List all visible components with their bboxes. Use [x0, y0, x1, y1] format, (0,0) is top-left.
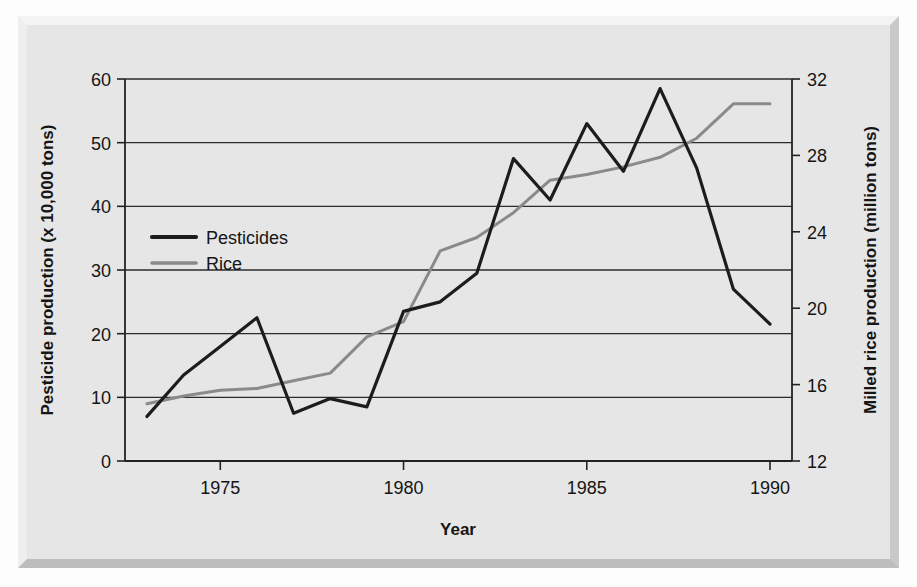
tick-label-right-28: 28	[807, 146, 827, 166]
tick-label-right-20: 20	[807, 299, 827, 319]
line-chart: 0102030405060 121620242832 1975198019851…	[0, 0, 917, 587]
x-axis-ticks	[220, 461, 770, 470]
tick-label-left-0: 0	[101, 452, 111, 472]
x-axis-tick-labels: 1975198019851990	[200, 478, 790, 498]
series-group	[147, 89, 770, 417]
tick-label-right-24: 24	[807, 223, 827, 243]
tick-label-left-60: 60	[91, 70, 111, 90]
left-axis-ticks	[117, 79, 125, 461]
scanned-page: 0102030405060 121620242832 1975198019851…	[0, 0, 917, 587]
tick-label-left-50: 50	[91, 134, 111, 154]
tick-label-x-1975: 1975	[200, 478, 240, 498]
tick-label-right-12: 12	[807, 452, 827, 472]
legend-label-pesticides: Pesticides	[206, 228, 288, 248]
series-line-pesticides	[147, 89, 770, 417]
chart-stage: 0102030405060 121620242832 1975198019851…	[0, 0, 917, 587]
right-axis-tick-labels: 121620242832	[807, 70, 827, 472]
y-left-axis-title: Pesticide production (x 10,000 tons)	[38, 125, 57, 416]
x-axis-title: Year	[440, 520, 476, 539]
tick-label-x-1985: 1985	[567, 478, 607, 498]
tick-label-right-32: 32	[807, 70, 827, 90]
tick-label-right-16: 16	[807, 376, 827, 396]
legend-label-rice: Rice	[206, 254, 242, 274]
tick-label-left-40: 40	[91, 197, 111, 217]
y-right-axis-title: Milled rice production (million tons)	[861, 126, 880, 414]
chart-legend: Pesticides Rice	[152, 228, 288, 274]
left-axis-tick-labels: 0102030405060	[91, 70, 111, 472]
tick-label-x-1990: 1990	[750, 478, 790, 498]
tick-label-left-10: 10	[91, 388, 111, 408]
right-axis-ticks	[792, 79, 800, 461]
tick-label-x-1980: 1980	[384, 478, 424, 498]
tick-label-left-20: 20	[91, 325, 111, 345]
tick-label-left-30: 30	[91, 261, 111, 281]
